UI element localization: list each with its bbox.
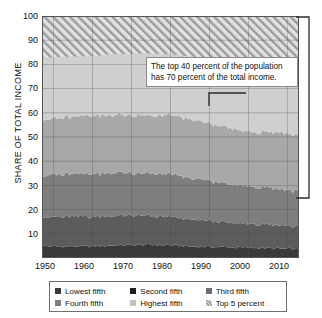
y-tick: 60: [8, 109, 38, 118]
legend-label: Third fifth: [216, 287, 249, 296]
x-tick: 1950: [28, 261, 62, 271]
x-tick: 1980: [145, 261, 179, 271]
plot-area: [42, 16, 299, 258]
annotation-line-2: has 70 percent of the total income.: [151, 72, 293, 83]
legend-swatch-icon: [55, 300, 61, 306]
stacked-area-chart: SHARE OF TOTAL INCOME 100 90 80 70 60 50…: [0, 0, 322, 318]
legend-item-second-fifth[interactable]: Second fifth: [130, 287, 205, 296]
x-tick: 1990: [184, 261, 218, 271]
x-tick: 1960: [67, 261, 101, 271]
x-tick: 2010: [262, 261, 296, 271]
legend-item-third-fifth[interactable]: Third fifth: [206, 287, 281, 296]
x-tick: 2000: [223, 261, 257, 271]
legend-swatch-icon: [206, 288, 212, 294]
y-tick: 10: [8, 230, 38, 239]
legend-item-top-5-percent[interactable]: Top 5 percent: [206, 299, 281, 308]
x-tick: 1970: [106, 261, 140, 271]
annotation-line-1: The top 40 percent of the population: [151, 61, 293, 72]
y-tick: 80: [8, 60, 38, 69]
annotation-callout: The top 40 percent of the population has…: [146, 57, 298, 87]
legend-item-fourth-fifth[interactable]: Fourth fifth: [55, 299, 130, 308]
legend-label: Fourth fifth: [65, 299, 103, 308]
area-series-svg: [42, 16, 299, 258]
x-axis-ticks: 1950 1960 1970 1980 1990 2000 2010: [0, 261, 322, 275]
legend-swatch-icon: [55, 288, 61, 294]
y-tick: 20: [8, 206, 38, 215]
legend-item-highest-fifth[interactable]: Highest fifth: [130, 299, 205, 308]
legend-label: Second fifth: [140, 287, 182, 296]
chart-legend: Lowest fifth Second fifth Third fifth Fo…: [49, 281, 287, 312]
y-tick: 90: [8, 36, 38, 45]
y-tick: 30: [8, 182, 38, 191]
y-tick: 50: [8, 133, 38, 142]
legend-swatch-icon: [206, 300, 212, 306]
y-tick: 70: [8, 84, 38, 93]
legend-item-lowest-fifth[interactable]: Lowest fifth: [55, 287, 130, 296]
legend-swatch-icon: [130, 300, 136, 306]
legend-label: Top 5 percent: [216, 299, 264, 308]
legend-label: Highest fifth: [140, 299, 182, 308]
legend-label: Lowest fifth: [65, 287, 105, 296]
legend-swatch-icon: [130, 288, 136, 294]
y-tick: 40: [8, 157, 38, 166]
legend-row-1: Lowest fifth Second fifth Third fifth: [55, 285, 281, 297]
y-tick: 100: [8, 12, 38, 21]
legend-row-2: Fourth fifth Highest fifth Top 5 percent: [55, 297, 281, 309]
